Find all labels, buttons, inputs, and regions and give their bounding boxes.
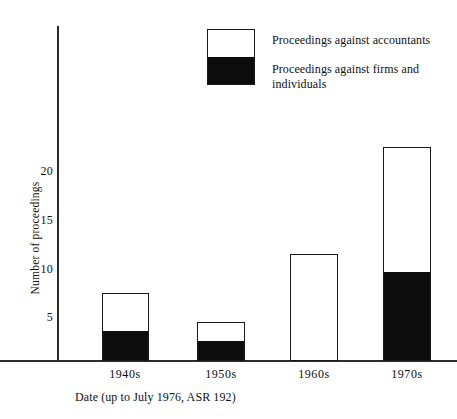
legend-label-accountants: Proceedings against accountants (272, 33, 457, 48)
chart-legend: Proceedings against accountants Proceedi… (207, 29, 457, 109)
legend-label-firms-individuals: Proceedings against firms and individual… (272, 62, 457, 92)
x-tick-1960s: 1960s (269, 367, 359, 381)
y-tick-10: 10 (20, 263, 53, 275)
y-tick-5: 5 (20, 311, 53, 323)
y-axis-title: Number of proceedings (29, 158, 41, 318)
x-tick-1970s: 1970s (362, 367, 452, 381)
y-tick-15: 15 (20, 214, 53, 226)
y-tick-20: 20 (20, 165, 53, 177)
bar-1940s-black-segment (103, 331, 148, 360)
x-axis-title: Date (up to July 1976, ASR 192) (75, 390, 236, 404)
bar-1950s (197, 322, 245, 361)
bar-chart: Proceedings against accountants Proceedi… (0, 0, 457, 419)
bar-1970s-black-segment (384, 272, 430, 360)
y-axis-line (57, 26, 59, 362)
bar-1950s-black-segment (198, 341, 244, 360)
bar-1960s (290, 254, 338, 361)
bar-1940s (102, 293, 149, 361)
x-tick-1940s: 1940s (80, 367, 170, 381)
legend-swatch-black-half (208, 57, 254, 84)
bar-1970s (383, 147, 431, 361)
legend-swatch-split (207, 29, 255, 85)
x-tick-1950s: 1950s (176, 367, 266, 381)
